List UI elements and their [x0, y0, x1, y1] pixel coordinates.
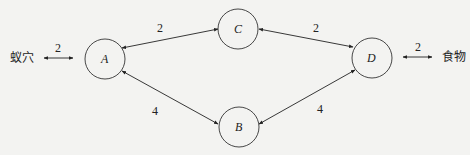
edge-b-d	[259, 70, 355, 124]
node-b-label: B	[235, 120, 243, 134]
diagram-canvas: 蚁穴 2 2 2 4 4 A C B D 2 食物	[0, 0, 470, 155]
node-a-label: A	[100, 52, 109, 66]
label-ant-nest: 蚁穴	[10, 50, 34, 65]
node-b: B	[219, 107, 259, 147]
node-c-label: C	[234, 22, 243, 36]
edge-a-b	[122, 71, 218, 124]
edge-c-d	[259, 29, 353, 47]
node-d-label: D	[366, 51, 376, 65]
weight-a-b: 4	[152, 104, 158, 118]
label-food: 食物	[442, 49, 466, 64]
node-c: C	[218, 9, 258, 49]
weight-d-food: 2	[415, 40, 421, 54]
weight-c-d: 2	[313, 21, 319, 35]
node-a: A	[85, 39, 125, 79]
node-d: D	[352, 38, 392, 78]
weight-a-c: 2	[157, 21, 163, 35]
weight-b-d: 4	[317, 102, 323, 116]
edge-a-c	[122, 29, 218, 48]
weight-nest-a: 2	[55, 41, 61, 55]
